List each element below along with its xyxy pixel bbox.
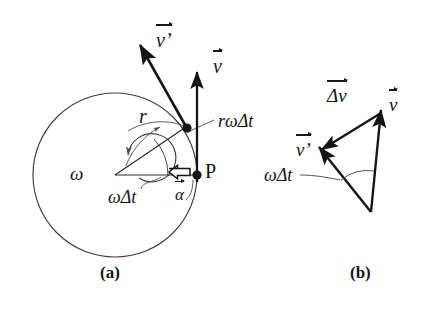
panel-a-group: [33, 45, 214, 257]
angle-arc-omega-delta-t-b: [341, 171, 374, 180]
vector-bar-icon: [213, 50, 222, 52]
physics-figure: v’ v r rωΔt P ω ωΔt α (a) Δv v v’ ωΔt (b…: [0, 0, 423, 323]
label-alpha: α: [175, 186, 184, 203]
label-v-a: v: [213, 56, 222, 76]
travelled-arc: [128, 122, 186, 131]
panel-caption-a: (a): [100, 264, 120, 281]
panel-b-group: [300, 110, 381, 212]
label-radius-r: r: [139, 106, 147, 126]
label-v-prime-a: v’: [156, 30, 172, 50]
panel-caption-b: (b): [350, 264, 371, 281]
label-v-prime-b: v’: [296, 140, 311, 159]
label-v-b: v: [389, 95, 397, 114]
omega-delta-t-leader: [141, 177, 161, 189]
vector-v-b: [371, 110, 381, 212]
vector-bar-icon: [296, 134, 311, 136]
label-point-p: P: [205, 161, 216, 181]
point-q-marker: [182, 123, 191, 132]
label-delta-v: Δv: [327, 86, 347, 105]
vector-bar-icon: [175, 181, 184, 182]
vector-v-prime-b: [319, 147, 371, 212]
arc-length-leader: [190, 120, 214, 131]
vector-bar-icon: [389, 89, 397, 91]
alpha-leader: [186, 180, 193, 200]
vector-bar-icon: [327, 80, 347, 82]
vector-bar-icon: [156, 24, 172, 26]
label-omega-a: ω: [70, 164, 83, 183]
point-p-marker: [192, 170, 201, 179]
label-arc-length: rωΔt: [218, 112, 253, 130]
label-omega-delta-t-b: ωΔt: [264, 166, 292, 184]
vector-delta-v: [321, 113, 381, 150]
label-omega-delta-t-a: ωΔt: [108, 188, 136, 206]
acceleration-arrow-alpha: [169, 165, 190, 179]
omega-delta-t-leader-b: [300, 175, 340, 180]
velocity-vector-v-prime: [140, 45, 189, 132]
